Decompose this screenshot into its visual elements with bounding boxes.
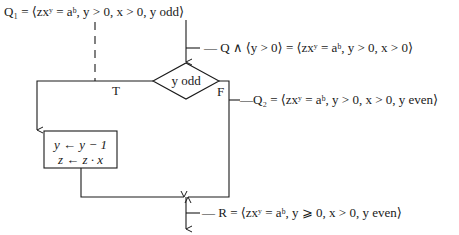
r-assertion: — R = ⟨zxʸ = aᵇ, y ⩾ 0, x > 0, y even⟩ <box>202 206 402 220</box>
q1-assertion: Q₁ = ⟨zxʸ = aᵇ, y > 0, x > 0, y odd⟩ <box>4 5 184 19</box>
process-box-text: y ← y − 1 z ← z · x <box>44 137 117 167</box>
q-and-assertion: — Q ∧ ⟨y > 0⟩ = ⟨zxʸ = aᵇ, y > 0, x > 0⟩ <box>204 41 413 55</box>
q2-assertion: —Q₂ = ⟨zxʸ = aᵇ, y > 0, x > 0, y even⟩ <box>240 93 438 107</box>
decision-condition: y odd <box>161 74 211 88</box>
false-label: F <box>217 85 224 99</box>
box-output-line <box>81 168 184 197</box>
assign-y: y ← y − 1 <box>44 137 117 152</box>
flowchart-lines <box>0 0 459 235</box>
true-label: T <box>112 84 120 98</box>
assign-z: z ← z · x <box>44 152 117 167</box>
true-branch-line <box>37 81 153 130</box>
